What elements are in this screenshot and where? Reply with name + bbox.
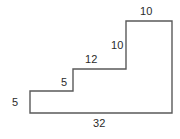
dimension-label-lower-tread: 5: [61, 76, 67, 88]
dimension-label-middle-tread: 12: [85, 53, 98, 65]
dimension-label-left-riser: 5: [12, 96, 18, 108]
dimension-label-top-edge: 10: [140, 5, 153, 17]
dimension-label-bottom-edge: 32: [93, 117, 106, 129]
staircase-polygon-svg: [0, 0, 180, 139]
figure-canvas: 10 10 12 5 5 32: [0, 0, 180, 139]
dimension-label-upper-riser: 10: [111, 39, 124, 51]
staircase-polygon-outline: [30, 21, 172, 113]
